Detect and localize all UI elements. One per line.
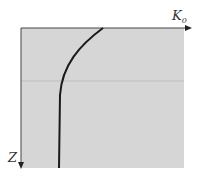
shaded-region [21, 28, 184, 168]
x-axis-label: K0 [171, 8, 187, 25]
k0-vs-depth-diagram: K0 Z [0, 0, 201, 180]
y-axis-label: Z [7, 150, 18, 165]
x-axis-arrow-icon [185, 25, 192, 31]
